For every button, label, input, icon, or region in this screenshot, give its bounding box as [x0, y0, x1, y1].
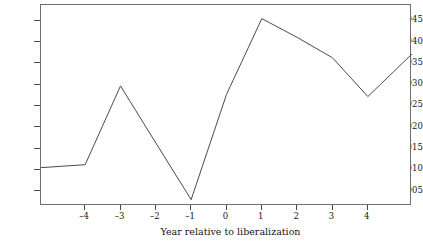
x-axis-tick-label: –1 — [178, 211, 202, 221]
x-axis-tick-label: 3 — [320, 211, 344, 221]
x-axis-tick-label: 4 — [355, 211, 379, 221]
x-axis-tick-label: –2 — [143, 211, 167, 221]
x-axis-tick-label: 1 — [249, 211, 273, 221]
x-axis-tick — [367, 205, 368, 210]
data-series-line — [41, 19, 412, 200]
x-axis-tick-label: 0 — [214, 211, 238, 221]
x-axis-tick — [332, 205, 333, 210]
x-axis-tick — [120, 205, 121, 210]
x-axis-title: Year relative to liberalization — [0, 226, 423, 237]
x-axis-tick — [155, 205, 156, 210]
x-axis-tick-label: 2 — [284, 211, 308, 221]
line-chart-svg — [41, 5, 412, 206]
plot-area — [40, 4, 411, 205]
x-axis-tick — [190, 205, 191, 210]
x-axis-tick — [261, 205, 262, 210]
x-axis-tick-label: –3 — [108, 211, 132, 221]
chart-figure: 0.0050.0100.0150.0200.0250.0300.0350.040… — [0, 0, 423, 248]
x-axis-tick — [84, 205, 85, 210]
x-axis-tick — [296, 205, 297, 210]
x-axis-tick — [226, 205, 227, 210]
x-axis-tick-label: –4 — [72, 211, 96, 221]
